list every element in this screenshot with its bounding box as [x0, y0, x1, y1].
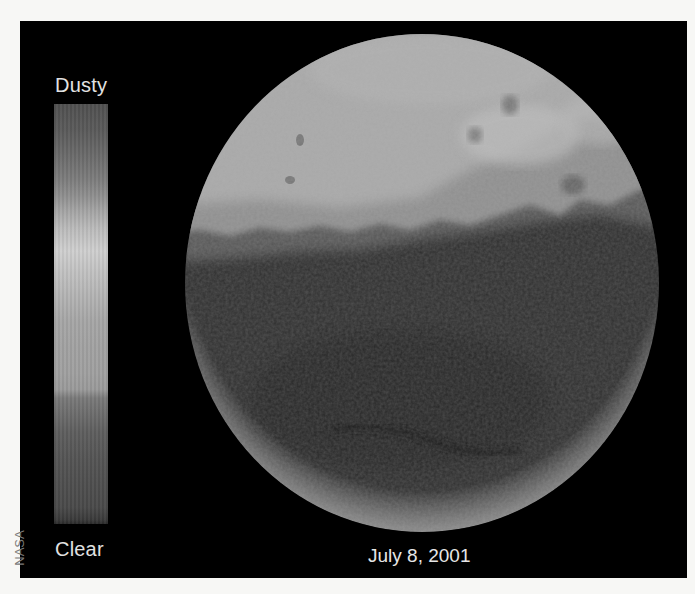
- mars-disc-image: [0, 0, 695, 594]
- date-label: July 8, 2001: [368, 545, 470, 567]
